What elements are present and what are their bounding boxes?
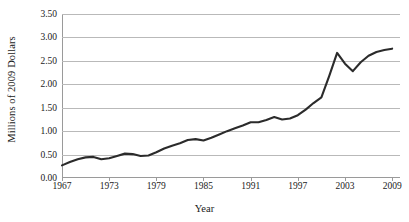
data-line-value: [62, 49, 392, 166]
x-tick-mark: [298, 178, 299, 181]
x-axis-title-text: Year: [195, 203, 214, 214]
y-axis-tick-labels: 0.000.501.001.502.002.503.003.50: [20, 8, 60, 184]
chart-container: Millions of 2009 Dollars 0.000.501.001.5…: [0, 0, 409, 222]
x-tick-mark: [62, 178, 63, 181]
line-chart-svg: [62, 14, 400, 178]
y-tick-label: 0.50: [40, 150, 57, 160]
plot-area: [62, 14, 400, 178]
x-tick-label: 1985: [194, 181, 213, 191]
x-tick-mark: [109, 178, 110, 181]
y-tick-label: 1.00: [40, 126, 57, 136]
x-tick-label: 1973: [100, 181, 119, 191]
x-tick-label: 1997: [288, 181, 307, 191]
x-tick-label: 1991: [241, 181, 260, 191]
y-tick-label: 3.50: [40, 9, 57, 19]
y-tick-label: 2.50: [40, 56, 57, 66]
x-tick-mark: [203, 178, 204, 181]
x-tick-mark: [156, 178, 157, 181]
y-axis-title: Millions of 2009 Dollars: [2, 0, 20, 178]
y-tick-label: 2.00: [40, 79, 57, 89]
x-tick-label: 1967: [53, 181, 72, 191]
x-tick-label: 2003: [335, 181, 354, 191]
x-tick-mark: [251, 178, 252, 181]
x-tick-mark: [392, 178, 393, 181]
y-tick-label: 3.00: [40, 32, 57, 42]
x-tick-label: 1979: [147, 181, 166, 191]
x-tick-label: 2009: [383, 181, 402, 191]
x-axis-tick-labels: 19671973197919851991199720032009: [62, 180, 400, 196]
y-axis-title-text: Millions of 2009 Dollars: [6, 36, 17, 143]
y-tick-label: 1.50: [40, 103, 57, 113]
series-layer: [62, 14, 400, 178]
x-tick-mark: [345, 178, 346, 181]
x-axis-title: Year: [0, 203, 409, 214]
